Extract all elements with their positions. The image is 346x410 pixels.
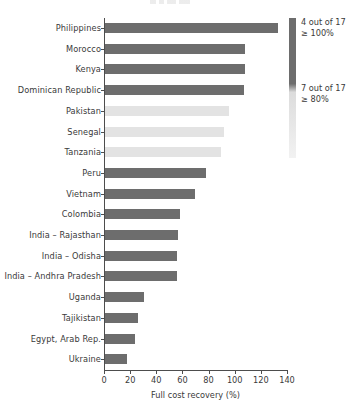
y-axis-tick bbox=[101, 49, 104, 50]
category-label: India – Odisha bbox=[42, 251, 101, 261]
category-label: Peru bbox=[82, 168, 101, 178]
y-axis-tick bbox=[101, 297, 104, 298]
bar-egypt-arab-rep bbox=[105, 334, 135, 344]
bar-india-andhra-pradesh bbox=[105, 271, 177, 281]
category-label: Philippines bbox=[56, 23, 101, 33]
category-label: Morocco bbox=[66, 44, 101, 54]
category-label: Colombia bbox=[62, 209, 101, 219]
category-label: India – Andhra Pradesh bbox=[4, 271, 101, 281]
x-axis-tick-label: 140 bbox=[272, 375, 302, 385]
category-label: Uganda bbox=[69, 292, 101, 302]
y-axis-tick bbox=[101, 28, 104, 29]
category-label: Egypt, Arab Rep. bbox=[31, 334, 101, 344]
bar-tajikistan bbox=[105, 313, 138, 323]
category-label: Pakistan bbox=[66, 106, 101, 116]
bar-tanzania bbox=[105, 147, 221, 157]
bar-peru bbox=[105, 168, 206, 178]
legend-entry-1: 7 out of 17 ≥ 80% bbox=[301, 83, 346, 105]
bar-dominican-republic bbox=[105, 85, 244, 95]
category-axis-labels: PhilippinesMoroccoKenyaDominican Republi… bbox=[0, 0, 101, 410]
y-axis-tick bbox=[101, 132, 104, 133]
x-axis-tick bbox=[209, 370, 210, 374]
category-label: Tajikistan bbox=[62, 313, 101, 323]
category-label: Dominican Republic bbox=[18, 85, 101, 95]
x-axis-line bbox=[104, 370, 287, 371]
bar-colombia bbox=[105, 209, 180, 219]
x-axis-tick bbox=[235, 370, 236, 374]
category-label: Ukraine bbox=[69, 354, 101, 364]
y-axis-tick bbox=[101, 173, 104, 174]
category-label: Kenya bbox=[75, 64, 101, 74]
legend-entry-1-count: 7 out of 17 bbox=[301, 83, 346, 94]
y-axis-tick bbox=[101, 69, 104, 70]
bar-morocco bbox=[105, 44, 245, 54]
y-axis-tick bbox=[101, 256, 104, 257]
category-label: Senegal bbox=[67, 127, 101, 137]
bar-india-rajasthan bbox=[105, 230, 178, 240]
y-axis-tick bbox=[101, 152, 104, 153]
y-axis-tick bbox=[101, 276, 104, 277]
y-axis-tick bbox=[101, 359, 104, 360]
legend-entry-0-count: 4 out of 17 bbox=[301, 17, 346, 28]
bar-india-odisha bbox=[105, 251, 177, 261]
x-axis-tick bbox=[287, 370, 288, 374]
x-axis-tick bbox=[182, 370, 183, 374]
bar-pakistan bbox=[105, 106, 229, 116]
x-axis-tick bbox=[104, 370, 105, 374]
y-axis-tick bbox=[101, 235, 104, 236]
x-axis-tick bbox=[156, 370, 157, 374]
bar-kenya bbox=[105, 64, 245, 74]
legend-entry-0-threshold: ≥ 100% bbox=[301, 28, 346, 39]
category-label: Tanzania bbox=[65, 147, 101, 157]
bar-philippines bbox=[105, 23, 278, 33]
bar-ukraine bbox=[105, 354, 127, 364]
y-axis-tick bbox=[101, 318, 104, 319]
bar-vietnam bbox=[105, 189, 195, 199]
y-axis-tick bbox=[101, 214, 104, 215]
y-axis-tick bbox=[101, 90, 104, 91]
category-label: Vietnam bbox=[66, 189, 101, 199]
x-axis-tick bbox=[261, 370, 262, 374]
legend-entry-0: 4 out of 17 ≥ 100% bbox=[301, 17, 346, 39]
cropped-title-remnant bbox=[150, 0, 190, 4]
x-axis-tick bbox=[130, 370, 131, 374]
y-axis-tick bbox=[101, 339, 104, 340]
legend-gradient-bar bbox=[289, 18, 296, 158]
plot-area: 020406080100120140 bbox=[104, 18, 287, 370]
bar-senegal bbox=[105, 127, 224, 137]
x-axis-title: Full cost recovery (%) bbox=[104, 390, 287, 400]
bar-uganda bbox=[105, 292, 144, 302]
y-axis-tick bbox=[101, 111, 104, 112]
category-label: India – Rajasthan bbox=[29, 230, 101, 240]
legend-entry-1-threshold: ≥ 80% bbox=[301, 94, 346, 105]
y-axis-tick bbox=[101, 194, 104, 195]
